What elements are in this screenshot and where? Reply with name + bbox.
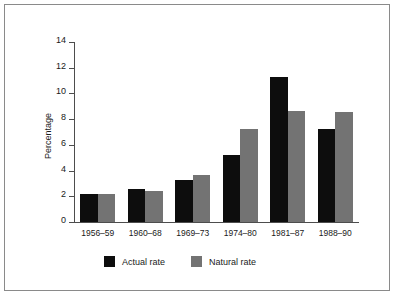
legend-swatch-icon (104, 256, 115, 267)
y-tick-mark (69, 222, 74, 223)
y-tick-label: 2 (61, 189, 66, 199)
y-tick-label: 8 (61, 112, 66, 122)
y-tick-label: 10 (56, 86, 66, 96)
y-tick-mark (69, 145, 74, 146)
x-tick-label: 1988–90 (312, 228, 360, 238)
bar-actual-rate (128, 189, 146, 222)
y-tick-label: 4 (61, 164, 66, 174)
y-tick-mark (69, 68, 74, 69)
bar-group (270, 42, 305, 222)
y-tick-mark (69, 171, 74, 172)
bar-natural-rate (145, 191, 163, 222)
y-tick-mark (69, 42, 74, 43)
bar-natural-rate (335, 112, 353, 222)
y-tick-label: 6 (61, 138, 66, 148)
bar-actual-rate (223, 155, 241, 223)
bar-actual-rate (175, 180, 193, 222)
plot-area: 14121086420 1956–591960–681969–731974–80… (74, 42, 359, 222)
y-tick-label: 12 (56, 61, 66, 71)
y-axis-title-label: Percentage (43, 147, 53, 159)
y-tick-mark (69, 196, 74, 197)
y-tick-label: 14 (56, 35, 66, 45)
bar-natural-rate (98, 194, 116, 222)
legend-item-natural-rate: Natural rate (191, 256, 256, 267)
x-tick-label: 1981–87 (264, 228, 312, 238)
bar-actual-rate (270, 77, 288, 222)
y-axis-title: Percentage (39, 84, 49, 96)
x-tick-label: 1956–59 (74, 228, 122, 238)
legend-item-actual-rate: Actual rate (104, 256, 165, 267)
bar-group (175, 42, 210, 222)
bar-group (80, 42, 115, 222)
chart-figure: Percentage 14121086420 1956–591960–68196… (0, 0, 395, 296)
y-tick-mark (69, 93, 74, 94)
legend-label: Natural rate (209, 257, 256, 267)
bar-natural-rate (240, 129, 258, 222)
x-tick-label: 1974–80 (217, 228, 265, 238)
bar-group (128, 42, 163, 222)
x-axis-line (74, 222, 359, 223)
bar-actual-rate (318, 129, 336, 222)
bar-group (318, 42, 353, 222)
x-tick-label: 1960–68 (122, 228, 170, 238)
bar-natural-rate (288, 111, 306, 222)
legend-label: Actual rate (122, 257, 165, 267)
bar-group (223, 42, 258, 222)
y-axis-line (74, 42, 75, 223)
bar-actual-rate (80, 194, 98, 222)
y-tick-label: 0 (61, 215, 66, 225)
legend-swatch-icon (191, 256, 202, 267)
x-tick-label: 1969–73 (169, 228, 217, 238)
y-tick-mark (69, 119, 74, 120)
chart-legend: Actual rateNatural rate (104, 256, 256, 267)
bar-natural-rate (193, 175, 211, 222)
